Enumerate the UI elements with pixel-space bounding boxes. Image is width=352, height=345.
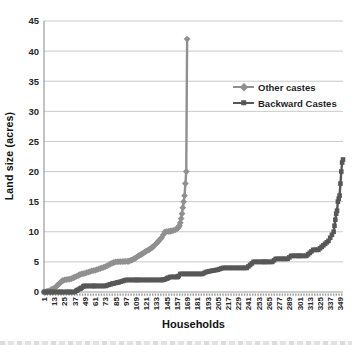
y-tick-label-40: 40 [28,46,39,57]
legend-line-backward [233,102,254,104]
land-size-chart: 4540353025201510501132537496173859710912… [0,0,352,345]
y-tick-label-25: 25 [28,136,39,147]
x-tick-label-97: 97 [122,296,131,305]
cropped-caption-strip [0,341,352,345]
legend-line-other [233,86,254,88]
y-tick-label-5: 5 [34,256,40,267]
x-tick-label-337: 337 [326,296,335,310]
x-tick-label-25: 25 [60,296,69,305]
marker-diamond [184,36,191,43]
x-tick-label-181: 181 [193,296,202,310]
y-tick-label-20: 20 [28,166,39,177]
marker-diamond [179,204,186,211]
legend: Other castes Backward Castes [233,79,337,111]
y-axis-title: Land size (acres) [3,86,17,226]
x-tick-label-169: 169 [183,296,192,310]
x-tick-label-265: 265 [265,296,274,310]
x-tick-label-61: 61 [91,296,100,305]
x-tick-label-217: 217 [224,296,233,310]
x-tick-label-133: 133 [152,296,161,310]
x-tick-label-301: 301 [296,296,305,310]
x-tick-label-121: 121 [142,296,151,310]
marker-diamond [180,198,187,205]
legend-item-backward-castes: Backward Castes [233,95,337,111]
marker-square [337,193,342,198]
marker-diamond [183,168,190,175]
marker-square [332,223,337,228]
series-line-0 [44,39,187,292]
y-tick-label-35: 35 [28,76,39,87]
x-tick-label-37: 37 [71,296,80,305]
x-tick-label-109: 109 [132,296,141,310]
x-tick-label-145: 145 [163,296,172,310]
legend-label-other-castes: Other castes [258,82,316,93]
x-tick-label-193: 193 [204,296,213,310]
marker-diamond [179,210,186,217]
x-tick-label-241: 241 [244,296,253,310]
marker-square [335,208,340,213]
marker-diamond [182,180,189,187]
x-axis-title: Households [44,318,343,330]
x-tick-label-73: 73 [101,296,110,305]
diamond-marker-icon [240,83,248,91]
x-tick-label-49: 49 [81,296,90,305]
x-tick-label-277: 277 [275,296,284,310]
marker-square [341,157,346,162]
x-tick-label-289: 289 [285,296,294,310]
chart-canvas: 4540353025201510501132537496173859710912… [0,0,352,345]
marker-diamond [181,192,188,199]
x-tick-label-349: 349 [336,296,345,310]
y-tick-label-10: 10 [28,226,39,237]
x-tick-label-229: 229 [234,296,243,310]
square-marker-icon [241,100,247,106]
marker-square [331,229,336,234]
x-tick-label-325: 325 [316,296,325,310]
marker-square [333,217,338,222]
marker-square [338,181,343,186]
y-tick-label-15: 15 [28,196,39,207]
x-tick-label-1: 1 [40,296,49,301]
y-tick-label-30: 30 [28,106,39,117]
x-tick-label-253: 253 [255,296,264,310]
x-tick-label-205: 205 [214,296,223,310]
x-tick-label-85: 85 [112,296,121,305]
legend-label-backward-castes: Backward Castes [258,98,337,109]
x-tick-label-313: 313 [306,296,315,310]
legend-item-other-castes: Other castes [233,79,337,95]
y-tick-label-0: 0 [34,286,39,297]
x-tick-label-157: 157 [173,296,182,310]
marker-square [339,169,344,174]
y-tick-label-45: 45 [28,15,39,26]
x-tick-label-13: 13 [50,296,59,305]
